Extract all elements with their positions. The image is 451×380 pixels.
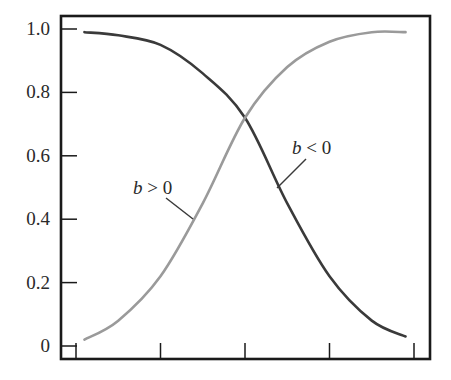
annotation-b-gt-0: b > 0 (133, 177, 172, 198)
y-tick-label: 0 (41, 335, 51, 356)
sigmoid-chart: 00.20.40.60.81.0 b > 0 b < 0 (0, 0, 451, 380)
plot-frame (61, 16, 430, 359)
annotation-b-lt-0: b < 0 (292, 137, 331, 158)
y-tick-label: 0.8 (26, 81, 50, 102)
y-axis-ticks: 00.20.40.60.81.0 (26, 18, 77, 356)
y-tick-label: 0.2 (26, 272, 50, 293)
annotation-leader-b-gt-0 (166, 198, 193, 219)
y-tick-label: 0.4 (26, 208, 50, 229)
y-tick-label: 1.0 (26, 18, 50, 39)
annotation-leader-b-lt-0 (277, 159, 306, 188)
x-axis-ticks (76, 343, 414, 359)
y-tick-label: 0.6 (26, 145, 50, 166)
